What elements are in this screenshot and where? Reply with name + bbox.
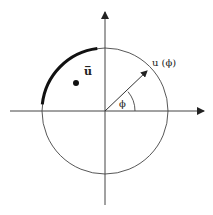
mean-point (73, 80, 79, 86)
label-phi: ϕ (119, 98, 126, 109)
vector-u-phi (105, 71, 147, 111)
angle-arc (128, 92, 135, 111)
unit-circle-diagram: u̅ u (ϕ) ϕ (0, 0, 213, 215)
label-u-bar: u̅ (84, 65, 92, 78)
label-u-phi: u (ϕ) (152, 57, 176, 68)
